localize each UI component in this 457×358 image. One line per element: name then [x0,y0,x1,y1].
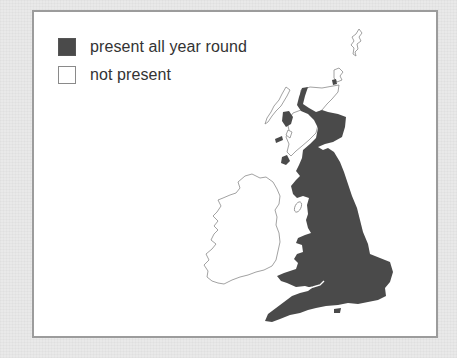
isle-of-wight-present [334,308,341,313]
isle-of-man-outline [293,201,303,214]
islay-present [281,155,290,165]
shetland-outline [351,29,362,56]
mull-present [275,136,283,143]
distribution-map [0,0,457,358]
ireland-outline [204,174,280,284]
